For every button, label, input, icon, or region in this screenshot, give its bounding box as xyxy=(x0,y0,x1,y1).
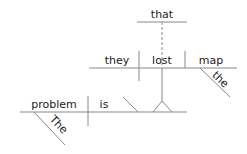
object-modifier: the xyxy=(209,69,231,91)
main-verb: is xyxy=(100,98,109,111)
connector-word: that xyxy=(151,8,174,21)
clause-verb: lost xyxy=(152,54,173,67)
pedestal-base xyxy=(153,101,172,112)
subject-modifier: The xyxy=(46,112,70,137)
sentence-diagram: that they lost map the problem is The xyxy=(0,0,247,154)
clause-object: map xyxy=(199,54,223,67)
clause-subject: they xyxy=(105,54,130,67)
main-subject: problem xyxy=(31,98,77,111)
predicate-slash xyxy=(123,97,138,112)
